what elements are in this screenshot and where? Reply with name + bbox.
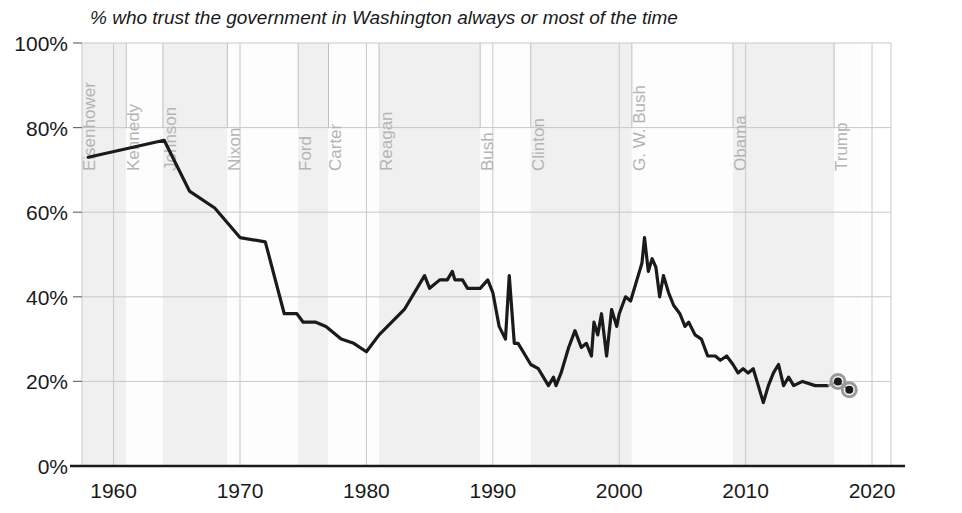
x-tick-label: 2010 (722, 479, 769, 502)
era-label: G. W. Bush (630, 85, 649, 171)
term-band (163, 43, 227, 466)
term-band (733, 43, 834, 466)
era-label: Reagan (377, 111, 396, 171)
era-label: Bush (478, 132, 497, 171)
era-label: Trump (832, 123, 851, 172)
era-label: Obama (731, 115, 750, 171)
y-tick-label: 40% (26, 286, 68, 309)
chart-title: % who trust the government in Washington… (90, 7, 678, 28)
era-label: Ford (296, 136, 315, 171)
term-band (227, 43, 298, 466)
term-band (298, 43, 328, 466)
y-tick-label: 0% (38, 455, 68, 478)
y-tick-label: 80% (26, 117, 68, 140)
y-axis-ticks: 0%20%40%60%80%100% (14, 32, 82, 478)
term-band (531, 43, 632, 466)
era-label: Clinton (529, 118, 548, 171)
x-axis-ticks: 1960197019801990200020102020 (90, 479, 895, 502)
x-tick-label: 2000 (596, 479, 643, 502)
term-band (480, 43, 531, 466)
x-tick-label: 1960 (90, 479, 137, 502)
chart-canvas: 0%20%40%60%80%100% 196019701980199020002… (0, 0, 962, 513)
era-label: Carter (326, 123, 345, 171)
y-tick-label: 100% (14, 32, 68, 55)
term-band (379, 43, 480, 466)
term-band (834, 43, 862, 466)
x-tick-label: 2020 (849, 479, 896, 502)
end-marker-core (834, 377, 842, 385)
era-label: Kennedy (124, 103, 143, 171)
x-tick-label: 1990 (469, 479, 516, 502)
trust-in-government-chart: 0%20%40%60%80%100% 196019701980199020002… (0, 0, 962, 513)
presidential-term-bands (82, 43, 862, 466)
x-tick-label: 1970 (217, 479, 264, 502)
y-tick-label: 20% (26, 370, 68, 393)
x-tick-label: 1980 (343, 479, 390, 502)
end-marker-core (845, 386, 853, 394)
era-label: Nixon (225, 128, 244, 171)
term-band (328, 43, 379, 466)
y-tick-label: 60% (26, 201, 68, 224)
